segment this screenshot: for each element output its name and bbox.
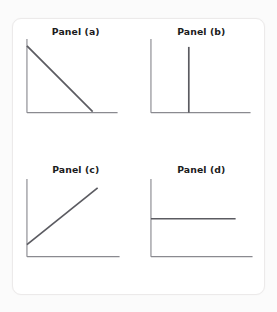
figure-card: Panel (a) Panel (b) Panel (c) (12, 18, 265, 295)
panel-c: Panel (c) (13, 157, 139, 295)
panel-grid: Panel (a) Panel (b) Panel (c) (13, 19, 264, 294)
panel-d-plot (139, 157, 265, 295)
panel-c-plot (13, 157, 139, 295)
panel-d: Panel (d) (139, 157, 265, 295)
panel-b-plot (139, 19, 265, 157)
panel-a-downward-line (27, 46, 93, 112)
panel-c-upward-line (27, 187, 98, 244)
panel-a: Panel (a) (13, 19, 139, 157)
panel-b: Panel (b) (139, 19, 265, 157)
panel-a-plot (13, 19, 139, 157)
